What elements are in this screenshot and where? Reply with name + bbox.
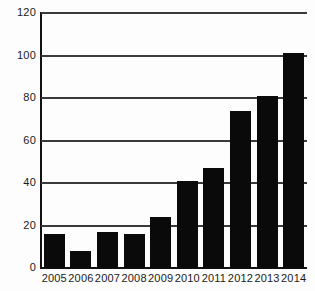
- x-axis-tick-labels: 2005200620072008200920102011201220132014: [41, 272, 307, 284]
- y-tick-label: 120: [2, 7, 36, 18]
- y-tick-label: 80: [2, 92, 36, 103]
- x-tick-label: 2010: [174, 272, 201, 284]
- bar-slot: [280, 13, 307, 268]
- bar-2012: [230, 111, 251, 268]
- bar-2010: [177, 181, 198, 268]
- bar-2014: [283, 53, 304, 268]
- x-tick-label: 2005: [41, 272, 68, 284]
- bar-chart: 020406080100120 200520062007200820092010…: [0, 0, 315, 291]
- bar-2008: [124, 234, 145, 268]
- x-tick-label: 2014: [280, 272, 307, 284]
- bar-slot: [41, 13, 68, 268]
- bar-slot: [121, 13, 148, 268]
- bar-2013: [257, 96, 278, 268]
- y-tick-label: 0: [2, 262, 36, 273]
- bar-slot: [227, 13, 254, 268]
- bar-slot: [94, 13, 121, 268]
- x-tick-label: 2009: [147, 272, 174, 284]
- x-tick-label: 2006: [68, 272, 95, 284]
- y-tick-label: 40: [2, 177, 36, 188]
- y-tick-label: 100: [2, 50, 36, 61]
- bar-slot: [147, 13, 174, 268]
- bar-2011: [203, 168, 224, 268]
- bar-2009: [150, 217, 171, 268]
- bar-slot: [68, 13, 95, 268]
- bar-2005: [44, 234, 65, 268]
- y-tick-label: 60: [2, 135, 36, 146]
- x-tick-label: 2007: [94, 272, 121, 284]
- x-tick-label: 2013: [254, 272, 281, 284]
- bar-slot: [254, 13, 281, 268]
- x-tick-label: 2011: [201, 272, 228, 284]
- y-tick-label: 20: [2, 220, 36, 231]
- bar-slot: [174, 13, 201, 268]
- bar-slot: [201, 13, 228, 268]
- bar-series: [41, 13, 307, 268]
- x-tick-label: 2008: [121, 272, 148, 284]
- bar-2006: [70, 251, 91, 268]
- x-tick-label: 2012: [227, 272, 254, 284]
- bar-2007: [97, 232, 118, 268]
